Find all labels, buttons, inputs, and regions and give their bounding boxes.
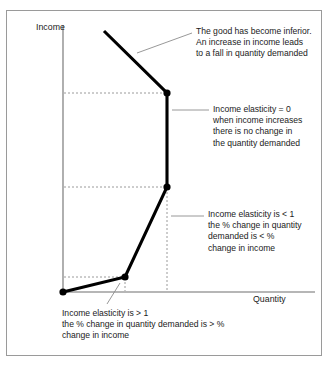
annotation-inferior-good: The good has become inferior. An increas… (196, 26, 312, 60)
annotation-zero-line-3: there is no change in (213, 126, 302, 137)
annotation-zero-line-1: Income elasticity = 0 (213, 104, 302, 115)
vertex-kink-zero (163, 89, 170, 96)
annotation-zero-elasticity: Income elasticity = 0 when income increa… (213, 104, 302, 149)
annotation-gt1-line-3: change in income (62, 330, 224, 341)
annotation-gt1-line-1: Income elasticity is > 1 (62, 308, 224, 319)
annotation-zero-line-4: the quantity demanded (213, 138, 302, 149)
vertex-kink-gt1 (121, 273, 128, 280)
diagram-page: Income Quantity The good has become infe… (0, 0, 334, 365)
annotation-lt1-line-3: demanded is < % (208, 231, 302, 242)
engel-curve (63, 31, 167, 292)
y-axis-label: Income (36, 22, 65, 33)
annotation-greater-than-one: Income elasticity is > 1 the % change in… (62, 308, 224, 342)
annotation-less-than-one: Income elasticity is < 1 the % change in… (208, 209, 302, 254)
leader-line-gt1 (107, 283, 120, 304)
annotation-inferior-line-1: The good has become inferior. (196, 26, 312, 37)
vertex-origin-point (59, 288, 66, 295)
annotation-gt1-line-2: the % change in quantity demanded is > % (62, 319, 224, 330)
annotation-zero-line-2: when income increases (213, 115, 302, 126)
x-axis-label: Quantity (253, 294, 286, 305)
annotation-inferior-line-3: to a fall in quantity demanded (196, 48, 312, 59)
annotation-inferior-line-2: An increase in income leads (196, 37, 312, 48)
annotation-lt1-line-2: the % change in quantity (208, 220, 302, 231)
vertex-kink-lt1 (163, 183, 170, 190)
annotation-lt1-line-4: change in income (208, 243, 302, 254)
leader-line-inferior (137, 33, 192, 53)
annotation-lt1-line-1: Income elasticity is < 1 (208, 209, 302, 220)
